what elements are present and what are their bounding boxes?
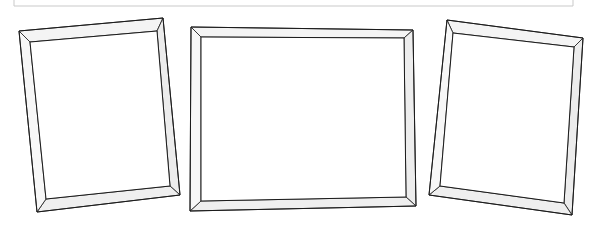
frame-right-aperture xyxy=(440,33,574,203)
illustration-canvas xyxy=(0,0,599,230)
frames-illustration xyxy=(0,0,599,230)
frame-left-aperture xyxy=(30,31,170,199)
frame-center-aperture xyxy=(201,37,406,201)
frame-center[interactable] xyxy=(190,27,416,211)
frame-right[interactable] xyxy=(429,20,583,215)
frame-left[interactable] xyxy=(19,18,180,212)
frame-center-band-left xyxy=(190,27,201,211)
